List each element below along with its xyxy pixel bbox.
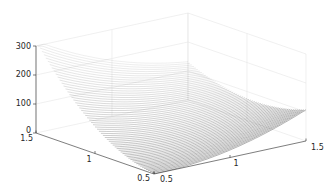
z-tick-300: 300 [16, 42, 31, 51]
y-tick-1.5: 1.5 [311, 143, 324, 152]
mesh-line [50, 65, 202, 78]
mesh-line [66, 83, 218, 95]
surface-plot: 300 200 100 0 1.5 1 0.5 0.5 1 1.5 [0, 0, 335, 193]
mesh-line [87, 95, 239, 119]
mesh-line [54, 71, 206, 82]
x-tick-1.5: 1.5 [20, 134, 33, 143]
mesh-line [101, 101, 253, 134]
surface-mesh [36, 44, 306, 173]
mesh-line [152, 110, 304, 173]
back-grid [36, 13, 306, 141]
x-tick-1: 1 [86, 155, 91, 164]
y-tick-0.5: 0.5 [160, 175, 173, 184]
tick-labels: 300 200 100 0 1.5 1 0.5 0.5 1 1.5 [16, 42, 324, 184]
y-tick-1: 1 [233, 159, 238, 168]
z-tick-200: 200 [16, 70, 31, 79]
z-tick-100: 100 [16, 99, 31, 108]
x-tick-0.5: 0.5 [137, 174, 150, 183]
